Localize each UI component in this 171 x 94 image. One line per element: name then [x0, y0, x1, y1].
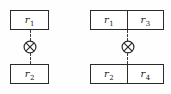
relation-label: r2: [25, 69, 35, 79]
dashed-connector-lower: [30, 53, 31, 64]
relation-cell: r2: [11, 65, 48, 83]
relation-label: r1: [25, 15, 35, 25]
relation-label: r2: [104, 69, 114, 79]
figure-canvas: r1 r2 r1 r3: [0, 0, 171, 94]
circled-times-icon: [121, 40, 135, 54]
relation-box-top: r1: [10, 10, 49, 30]
relation-cell: r4: [127, 65, 164, 83]
relation-label: r3: [140, 15, 150, 25]
relation-label: r4: [140, 69, 150, 79]
relation-cell: r3: [127, 11, 164, 29]
dashed-connector-lower: [127, 53, 128, 64]
diagram-left: r1 r2: [0, 0, 86, 94]
relation-cell: r2: [91, 65, 127, 83]
circled-times-icon: [23, 40, 37, 54]
relation-box-bottom: r2 r4: [90, 64, 164, 84]
relation-cell: r1: [91, 11, 127, 29]
relation-label: r1: [104, 15, 114, 25]
relation-box-bottom: r2: [10, 64, 49, 84]
relation-cell: r1: [11, 11, 48, 29]
relation-box-top: r1 r3: [90, 10, 164, 30]
diagram-right: r1 r3 r2 r4: [85, 0, 171, 94]
